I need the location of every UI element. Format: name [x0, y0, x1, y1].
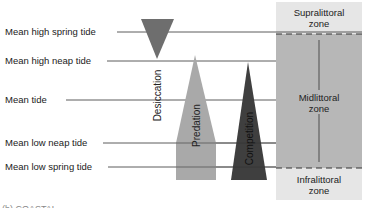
- infralittoral-line1: Infralittoral: [276, 174, 362, 185]
- supralittoral-line1: Supralittoral: [276, 7, 362, 18]
- label-mean-tide: Mean tide: [5, 94, 47, 105]
- supralittoral-line2: zone: [276, 18, 362, 29]
- label-mean-low-neap-tide: Mean low neap tide: [5, 137, 87, 148]
- label-supralittoral-zone: Supralittoral zone: [276, 7, 362, 29]
- midlittoral-line2: zone: [276, 103, 362, 114]
- desiccation-triangle: [141, 19, 174, 59]
- label-desiccation: Desiccation: [152, 66, 163, 126]
- label-mean-high-neap-tide: Mean high neap tide: [5, 55, 91, 66]
- midlittoral-line1: Midlittoral: [276, 92, 362, 103]
- label-predation: Predation: [191, 96, 202, 156]
- figure-caption-cropped: (b) COASTAL...: [2, 203, 64, 208]
- label-competition: Competition: [244, 104, 255, 174]
- infralittoral-line2: zone: [276, 185, 362, 196]
- label-mean-high-spring-tide: Mean high spring tide: [5, 26, 96, 37]
- intertidal-zonation-diagram: Mean high spring tide Mean high neap tid…: [0, 0, 367, 208]
- label-infralittoral-zone: Infralittoral zone: [276, 174, 362, 196]
- label-mean-low-spring-tide: Mean low spring tide: [5, 161, 92, 172]
- label-midlittoral-zone: Midlittoral zone: [276, 92, 362, 114]
